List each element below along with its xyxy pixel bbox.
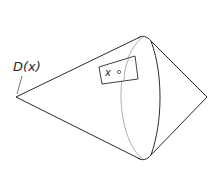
double-cone-diagram: x D(x) bbox=[0, 0, 223, 179]
ellipse-back-arc bbox=[121, 37, 143, 159]
domain-leader-line bbox=[17, 76, 22, 94]
point-label: x bbox=[104, 67, 111, 78]
domain-label: D(x) bbox=[13, 59, 41, 74]
ellipse-front-arc bbox=[151, 41, 160, 155]
ellipse-top-cap bbox=[138, 36, 151, 41]
ellipse-bottom-cap bbox=[138, 155, 151, 160]
